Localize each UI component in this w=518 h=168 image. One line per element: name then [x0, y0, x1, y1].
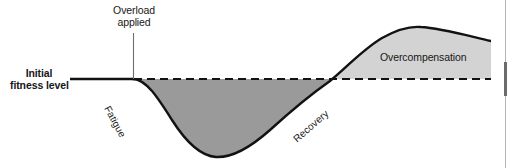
supercompensation-figure: Initial fitness level Overload applied F…: [0, 0, 518, 168]
overcompensation-label: Overcompensation: [380, 52, 467, 64]
initial-fitness-level-label: Initial fitness level: [10, 68, 68, 92]
vertical-scrollbar-thumb[interactable]: [504, 62, 507, 96]
fatigue-region-fill: [133, 79, 330, 157]
overload-applied-label: Overload applied: [98, 5, 170, 29]
fitness-curve-chart: [0, 0, 518, 168]
